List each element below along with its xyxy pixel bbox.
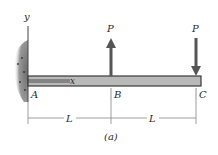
cantilever-beam-diagram: y x P P A B C L L (a) — [0, 0, 218, 155]
y-axis-label: y — [23, 11, 30, 22]
dimension-label-ab: L — [65, 113, 73, 124]
beam — [28, 76, 201, 86]
point-label-b: B — [113, 89, 121, 100]
force-arrow-b-up — [106, 38, 116, 76]
point-label-a: A — [30, 89, 38, 100]
fixed-wall-support — [14, 40, 28, 102]
force-label-c: P — [191, 23, 199, 34]
dimension-label-bc: L — [148, 113, 156, 124]
x-axis-label: x — [70, 76, 75, 86]
point-label-c: C — [199, 89, 207, 100]
force-arrow-c-down — [191, 38, 201, 76]
dimension-lines — [28, 100, 196, 124]
figure-caption: (a) — [104, 131, 118, 142]
force-label-b: P — [106, 23, 114, 34]
